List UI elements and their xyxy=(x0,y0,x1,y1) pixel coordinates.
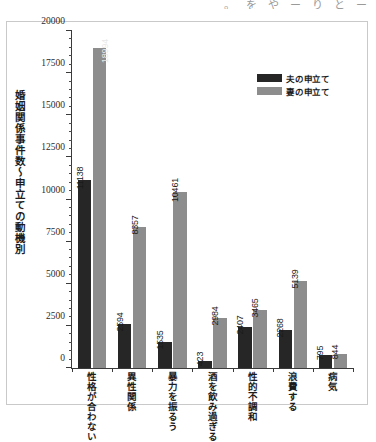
bar: 2984 xyxy=(213,318,227,368)
legend-swatch xyxy=(257,74,282,82)
y-axis-tick-label: 5000 xyxy=(46,269,65,279)
bar: 2268 xyxy=(279,330,293,368)
y-axis-tick-label: 0 xyxy=(60,353,65,363)
bar: 18994 xyxy=(93,48,107,368)
y-axis-tick-label: 7500 xyxy=(46,227,65,237)
x-axis-label: 暴力を振るう xyxy=(166,372,177,432)
bar-value-label: 423 xyxy=(195,352,205,366)
bar: 10461 xyxy=(173,192,187,368)
x-axis-label: 性的不調和 xyxy=(246,372,257,422)
x-axis-tick xyxy=(353,368,354,372)
bar: 1535 xyxy=(158,342,172,368)
x-axis-label: 性格が合わない xyxy=(86,372,97,442)
page-fragment-char: り xyxy=(306,0,328,9)
legend-item: 夫の申立て xyxy=(257,72,330,83)
bar: 5139 xyxy=(294,281,308,368)
bar-value-label: 8357 xyxy=(130,216,140,235)
page-fragment-char: ー xyxy=(350,0,372,9)
bar-chart: 婚姻関係事件数〜申立ての動機別 025005000750010000125001… xyxy=(7,22,367,404)
bar-value-label: 795 xyxy=(315,345,325,359)
y-axis-tick-label: 20000 xyxy=(41,16,65,26)
bar-value-label: 2594 xyxy=(115,313,125,332)
legend-item: 妻の申立て xyxy=(257,85,330,96)
chart-legend: 夫の申立て妻の申立て xyxy=(257,72,330,98)
bar-value-label: 1535 xyxy=(155,331,165,350)
page-fragment-char: を xyxy=(240,0,262,9)
y-axis-tick-label: 2500 xyxy=(46,311,65,321)
bar-value-label: 844 xyxy=(330,345,340,359)
bar-value-label: 2984 xyxy=(210,306,220,325)
y-axis-tick-label: 12500 xyxy=(41,142,65,152)
bar-value-label: 18994 xyxy=(100,39,110,63)
legend-label: 夫の申立て xyxy=(286,72,330,84)
bar: 423 xyxy=(198,361,212,368)
page-fragment-char: と xyxy=(328,0,350,9)
bar: 8357 xyxy=(133,227,147,368)
bar-value-label: 11138 xyxy=(75,167,85,190)
bar-value-label: 2407 xyxy=(235,316,245,335)
page-fragment-char: や xyxy=(262,0,284,9)
bar-value-label: 2268 xyxy=(275,318,285,337)
y-axis-tick-label: 15000 xyxy=(41,100,65,110)
bar-value-label: 10461 xyxy=(170,178,180,202)
x-axis-label: 酒を飲み過ぎる xyxy=(206,372,217,442)
x-axis-label: 浪費する xyxy=(287,372,298,412)
bar: 11138 xyxy=(78,180,92,368)
y-axis-tick-label: 17500 xyxy=(41,58,65,68)
bar: 2407 xyxy=(238,327,252,368)
x-axis-category-labels: 性格が合わない異性関係暴力を振るう酒を飲み過ぎる性的不調和浪費する病気 xyxy=(71,372,353,432)
legend-swatch xyxy=(257,87,282,95)
figure-container: 婚姻関係事件数〜申立ての動機別 025005000750010000125001… xyxy=(6,21,368,405)
legend-label: 妻の申立て xyxy=(286,85,330,97)
page-fragment-char: 。 xyxy=(218,0,240,9)
bar: 2594 xyxy=(118,324,132,368)
bar-value-label: 5139 xyxy=(290,270,300,289)
bar: 3465 xyxy=(253,310,267,368)
x-axis-label: 異性関係 xyxy=(126,372,137,412)
bar: 844 xyxy=(334,354,348,368)
page-fragment-char: ー xyxy=(284,0,306,9)
x-axis-label: 病気 xyxy=(327,372,338,392)
y-axis-tick-label: 10000 xyxy=(41,185,65,195)
y-axis-title: 婚姻関係事件数〜申立ての動機別 xyxy=(8,90,24,255)
bar-value-label: 3465 xyxy=(250,298,260,317)
